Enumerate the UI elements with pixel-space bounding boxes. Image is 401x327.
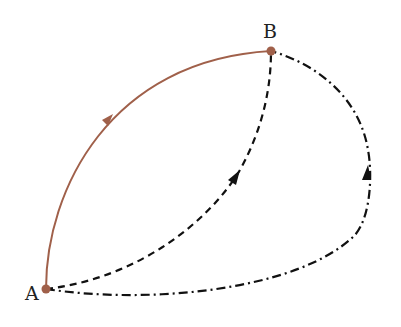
path-diagram	[0, 0, 401, 327]
label-b: B	[263, 22, 277, 41]
arrow-icon-dashed	[228, 170, 240, 185]
point-a	[42, 285, 51, 294]
dashed-path	[46, 51, 271, 289]
point-b	[267, 47, 276, 56]
dash-dot-path	[46, 51, 370, 295]
solid-path	[46, 51, 271, 289]
label-a: A	[25, 284, 39, 303]
